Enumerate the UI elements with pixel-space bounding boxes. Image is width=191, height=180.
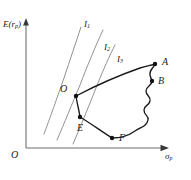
indifference-curve-label-i2: I2 <box>104 43 110 53</box>
indifference-curve-i1 <box>44 27 81 134</box>
y-axis-label-main: E(r <box>3 19 15 29</box>
indifference-curve-label-i1: I1 <box>84 20 90 30</box>
point-marker-e <box>78 115 82 119</box>
x-axis-label-subscript: p <box>169 155 172 161</box>
y-axis-arrow-icon <box>23 18 29 26</box>
figure-canvas <box>0 0 191 180</box>
x-axis-label: σp <box>165 152 172 162</box>
frontier-segment-o-to-a <box>76 64 155 96</box>
frontier-curves-group <box>76 64 155 138</box>
point-label-b: B <box>158 76 164 86</box>
point-markers-group <box>74 62 157 140</box>
y-axis-label: E(rp) <box>3 20 21 30</box>
point-label-o: O <box>60 84 67 94</box>
origin-label: O <box>11 150 18 160</box>
wavy-boundary-a-to-f <box>112 64 155 138</box>
point-label-f: F <box>119 133 125 143</box>
frontier-segment-e-to-f <box>80 117 112 138</box>
point-marker-b <box>150 79 154 83</box>
y-axis-label-tail: ) <box>18 19 21 29</box>
point-label-a: A <box>162 57 168 67</box>
indifference-curve-label-i1-subscript: 1 <box>87 23 90 29</box>
indifference-curve-label-i2-subscript: 2 <box>107 46 110 52</box>
point-marker-a <box>153 62 157 66</box>
point-marker-f <box>110 136 114 140</box>
figure-caption <box>0 172 191 180</box>
point-label-e: E <box>77 123 83 133</box>
point-marker-o <box>74 94 78 98</box>
indifference-curve-label-i3: I3 <box>117 55 123 65</box>
frontier-segment-o-to-e <box>76 96 80 117</box>
indifference-curve-label-i3-subscript: 3 <box>120 58 123 64</box>
efficient-frontier-figure: E(rp) σp O I1 I2 I3 A B O E F <box>0 0 191 180</box>
